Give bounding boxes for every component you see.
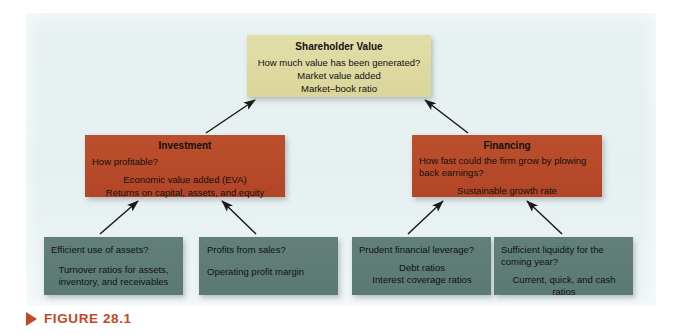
node-question: Profits from sales? bbox=[207, 244, 330, 255]
node-prudent-financial-leverage: Prudent financial leverage? Debt ratios … bbox=[352, 237, 491, 295]
node-measure: Current, quick, and cash bbox=[501, 274, 627, 285]
node-title: Shareholder Value bbox=[253, 41, 425, 53]
node-question: How much value has been generated? bbox=[253, 57, 425, 68]
figure-caption-text: FIGURE 28.1 bbox=[44, 311, 132, 326]
node-title: Financing bbox=[419, 140, 595, 152]
node-question: Efficient use of assets? bbox=[51, 244, 176, 255]
node-measure: Returns on capital, assets, and equity bbox=[92, 187, 278, 198]
node-financing: Financing How fast could the firm grow b… bbox=[412, 135, 602, 197]
node-profits-from-sales: Profits from sales? Operating profit mar… bbox=[199, 237, 338, 295]
node-investment: Investment How profitable? Economic valu… bbox=[85, 135, 285, 197]
node-efficient-assets: Efficient use of assets? Turnover ratios… bbox=[44, 237, 183, 295]
node-measure: Interest coverage ratios bbox=[359, 274, 485, 285]
node-question: Sufficient liquidity for the coming year… bbox=[501, 244, 627, 268]
triangle-right-icon bbox=[26, 312, 37, 326]
node-measure: ratios bbox=[501, 286, 627, 297]
node-measure: Sustainable growth rate bbox=[419, 185, 595, 196]
node-measure: Market–book ratio bbox=[253, 83, 425, 94]
node-measure: Operating profit margin bbox=[207, 266, 330, 277]
node-measure: Debt ratios bbox=[359, 262, 485, 273]
node-measure: inventory, and receivables bbox=[51, 276, 176, 287]
node-question: Prudent financial leverage? bbox=[359, 244, 485, 256]
node-question: How fast could the firm grow by plowing … bbox=[419, 155, 595, 179]
node-question: How profitable? bbox=[92, 156, 278, 167]
node-sufficient-liquidity: Sufficient liquidity for the coming year… bbox=[494, 237, 633, 295]
node-measure: Market value added bbox=[253, 70, 425, 81]
figure-caption: FIGURE 28.1 bbox=[26, 311, 132, 326]
node-measure: Turnover ratios for assets, bbox=[51, 264, 176, 275]
node-measure: Economic value added (EVA) bbox=[92, 174, 278, 185]
node-shareholder-value: Shareholder Value How much value has bee… bbox=[247, 35, 431, 97]
node-title: Investment bbox=[92, 140, 278, 152]
